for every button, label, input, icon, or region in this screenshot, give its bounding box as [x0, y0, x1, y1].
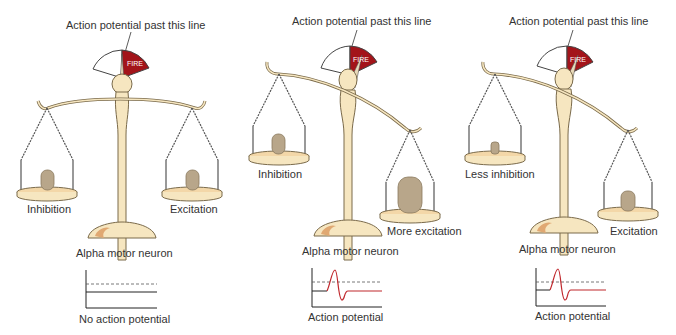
- panel-less-inhibition: Action potential past this line FIRE Les…: [450, 0, 676, 335]
- threshold-label: Action potential past this line: [292, 15, 431, 27]
- left-pan-label: Inhibition: [258, 168, 302, 180]
- neuron-label: Alpha motor neuron: [519, 243, 616, 255]
- result-label: Action potential: [535, 310, 610, 322]
- fire-label: FIRE: [570, 56, 586, 63]
- left-pan-label: Less inhibition: [465, 168, 535, 180]
- fire-label: FIRE: [353, 56, 369, 63]
- neuron-label: Alpha motor neuron: [302, 245, 399, 257]
- fire-label: FIRE: [127, 60, 143, 67]
- neuron-label: Alpha motor neuron: [76, 247, 173, 259]
- excitation-weight: [621, 191, 635, 211]
- result-label: No action potential: [79, 313, 170, 325]
- right-pan-label: Excitation: [170, 203, 218, 215]
- inhibition-weight: [41, 170, 54, 190]
- excitation-weight: [398, 177, 422, 213]
- panel-more-excitation: Action potential past this line FIRE Inh…: [230, 0, 460, 335]
- threshold-label: Action potential past this line: [66, 19, 205, 31]
- action-potential-trace: [327, 270, 382, 300]
- right-pan-label: Excitation: [610, 225, 658, 237]
- panel-balanced: Action potential past this line FIRE Inh…: [0, 0, 230, 335]
- excitation-weight: [186, 170, 199, 190]
- threshold-label: Action potential past this line: [509, 15, 648, 27]
- action-potential-trace: [550, 269, 606, 300]
- result-label: Action potential: [308, 311, 383, 323]
- left-pan-label: Inhibition: [27, 203, 71, 215]
- inhibition-weight: [491, 142, 499, 154]
- inhibition-weight: [272, 134, 285, 154]
- balance-scale-illustration: [0, 0, 230, 335]
